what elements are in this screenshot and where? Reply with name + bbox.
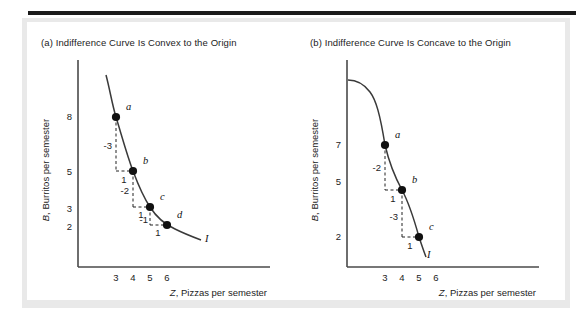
panel-b-step-label-0: -2 bbox=[373, 162, 381, 173]
panel-a-point-label-c: c bbox=[160, 191, 165, 202]
panel-a-xtick-3: 6 bbox=[164, 272, 169, 283]
top-rule-divider bbox=[28, 11, 576, 15]
panel-a-point-c[interactable] bbox=[146, 203, 154, 211]
panel-a-point-label-a: a bbox=[126, 101, 131, 112]
panel-b-point-label-c: c bbox=[429, 221, 434, 232]
panel-b-point-c[interactable] bbox=[415, 233, 423, 241]
panel-a-point-a[interactable] bbox=[112, 113, 120, 121]
panel-a-xtick-0: 3 bbox=[113, 272, 118, 283]
panel-a-step-label-0: -3 bbox=[104, 140, 112, 151]
panel-b-step-label-3: 1 bbox=[407, 240, 412, 251]
panel-b-xtick-0: 3 bbox=[382, 272, 387, 283]
panel-a-xtick-1: 4 bbox=[130, 272, 135, 283]
panel-a-step-label-2: -2 bbox=[121, 185, 129, 196]
panel-a-ytick-1: 5 bbox=[67, 166, 72, 177]
panel-b-step-label-1: 1 bbox=[390, 193, 395, 204]
panel-a-ytick-3: 2 bbox=[67, 221, 72, 232]
panel-b-point-label-b: b bbox=[412, 174, 417, 185]
panel-a: (a) Indifference Curve Is Convex to the … bbox=[27, 22, 296, 300]
panel-b: (b) Indifference Curve Is Concave to the… bbox=[296, 22, 565, 300]
panel-a-indifference-curve bbox=[106, 75, 201, 240]
panel-b-xtick-1: 4 bbox=[399, 272, 404, 283]
panel-b-step-label-2: -3 bbox=[390, 211, 398, 222]
panel-a-curve-label: I bbox=[204, 233, 209, 244]
panel-a-point-label-d: d bbox=[177, 209, 183, 220]
panel-a-ytick-0: 8 bbox=[67, 111, 72, 122]
panel-b-ylabel: B, Burritos per semester bbox=[309, 119, 320, 221]
panel-a-step-label-5: 1 bbox=[155, 227, 160, 238]
panel-a-ylabel: B, Burritos per semester bbox=[40, 119, 51, 221]
panel-a-point-b[interactable] bbox=[129, 167, 137, 175]
panel-b-indifference-curve bbox=[348, 80, 426, 257]
panel-b-point-label-a: a bbox=[395, 129, 400, 140]
panel-a-ytick-2: 3 bbox=[67, 203, 72, 214]
figure-root: (a) Indifference Curve Is Convex to the … bbox=[0, 0, 586, 325]
panel-b-point-a[interactable] bbox=[381, 141, 389, 149]
panel-b-ytick-0: 7 bbox=[336, 139, 341, 150]
panel-b-point-b[interactable] bbox=[398, 186, 406, 194]
panel-a-point-d[interactable] bbox=[163, 221, 171, 229]
panel-b-xlabel: Z, Pizzas per semester bbox=[438, 287, 536, 298]
panel-a-step-label-4: -1 bbox=[140, 214, 148, 225]
panel-b-plot: B, Burritos per semester 7 5 2 3 4 5 6 Z… bbox=[296, 22, 565, 300]
panel-a-plot: B, Burritos per semester 8 5 3 2 3 4 5 6… bbox=[27, 22, 296, 300]
panel-b-curve-label: I bbox=[426, 249, 431, 260]
panel-a-point-label-b: b bbox=[143, 155, 148, 166]
panel-a-xlabel: Z, Pizzas per semester bbox=[169, 287, 267, 298]
panel-a-step-label-1: 1 bbox=[121, 174, 126, 185]
panel-b-xtick-3: 6 bbox=[433, 272, 438, 283]
panel-a-xtick-2: 5 bbox=[147, 272, 152, 283]
panel-b-ytick-1: 5 bbox=[336, 176, 341, 187]
panel-b-ytick-2: 2 bbox=[336, 231, 341, 242]
panel-b-xtick-2: 5 bbox=[416, 272, 421, 283]
